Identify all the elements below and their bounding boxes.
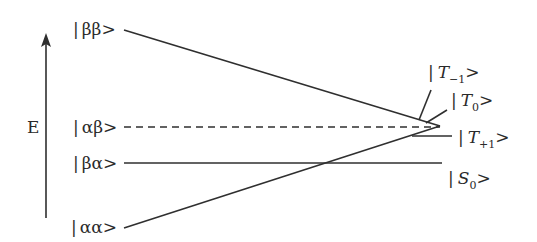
state-label-t-minus: |T−1> (428, 62, 480, 86)
state-label-t-zero: |T0> (451, 90, 493, 114)
state-label-ab: |αβ> (73, 117, 117, 137)
svg-text:|T+1>: |T+1> (458, 127, 510, 151)
state-label-t-plus: |T+1> (458, 127, 510, 151)
svg-text:|T−1>: |T−1> (428, 62, 480, 86)
state-label-bb: |ββ> (73, 19, 116, 39)
state-label-s-zero: |S0> (448, 168, 491, 192)
state-label-aa: |αα> (71, 217, 117, 237)
svg-text:|ββ>: |ββ> (73, 19, 116, 39)
svg-text:|βα>: |βα> (73, 153, 117, 173)
energy-axis-label: E (27, 117, 39, 137)
leader-t-minus (419, 90, 431, 120)
svg-text:|αα>: |αα> (71, 217, 117, 237)
energy-axis: E (27, 33, 51, 218)
line-aa-to-convergence (124, 126, 440, 228)
svg-text:|S0>: |S0> (448, 168, 491, 192)
energy-level-diagram: E |ββ> |αβ> |βα> |αα> |T−1> |T0> |T+1> | (0, 0, 537, 242)
line-bb-to-convergence (124, 30, 440, 126)
svg-text:|T0>: |T0> (451, 90, 493, 114)
svg-text:|αβ>: |αβ> (73, 117, 117, 137)
leader-t-zero (426, 110, 447, 123)
state-label-ba: |βα> (73, 153, 117, 173)
